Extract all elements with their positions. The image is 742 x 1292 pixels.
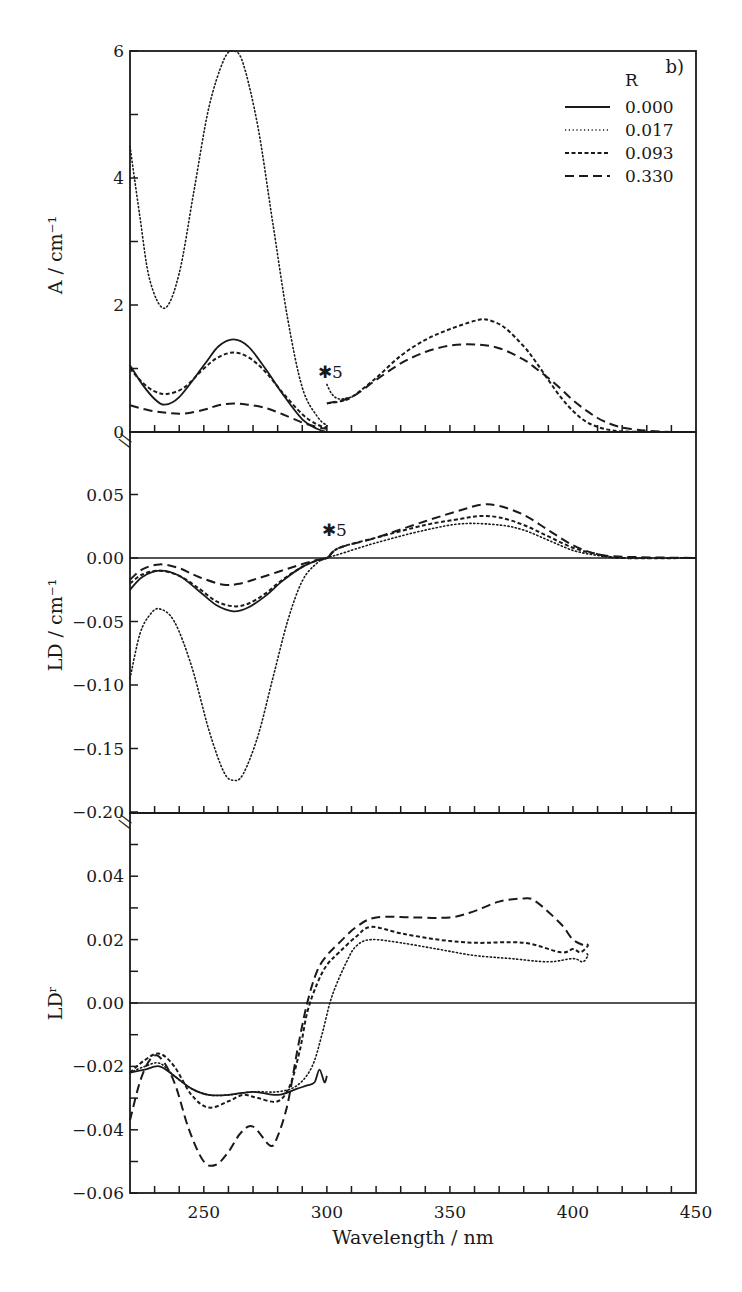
curves <box>130 898 588 1166</box>
legend-title: R <box>625 70 639 90</box>
x-tick-label: 450 <box>680 1202 712 1222</box>
panel-absorbance: 0246 A / cm⁻¹ ✱5 b) R 0.0000.0170.0930.3… <box>44 41 696 442</box>
series-curve-solid <box>130 339 327 432</box>
legend-label: 0.000 <box>625 97 674 117</box>
series-curve-dotted <box>130 51 327 426</box>
curves <box>130 504 696 780</box>
legend-entries: 0.0000.0170.0930.330 <box>565 97 674 186</box>
curves <box>130 51 696 432</box>
x-tick-label: 300 <box>311 1202 343 1222</box>
legend-label: 0.017 <box>625 120 674 140</box>
panel-linear-dichroism: −0.20−0.15−0.10−0.050.000.05 LD / cm⁻¹ ✱… <box>44 432 696 822</box>
y-tick-label: 0.05 <box>86 485 124 505</box>
panel-reduced-linear-dichroism: −0.06−0.04−0.020.000.020.04 LDʳ // 25030… <box>44 813 712 1248</box>
y-tick-label: 0.02 <box>86 930 124 950</box>
series-curve-short-dash <box>130 927 588 1108</box>
y-tick-label: −0.02 <box>72 1056 124 1076</box>
figure: 0246 A / cm⁻¹ ✱5 b) R 0.0000.0170.0930.3… <box>0 0 742 1292</box>
y-tick-label: 0.00 <box>86 993 124 1013</box>
axis-break-mark: // <box>114 432 136 449</box>
y-axis-title: LD / cm⁻¹ <box>44 579 66 672</box>
legend: R 0.0000.0170.0930.330 <box>565 70 674 186</box>
legend-label: 0.330 <box>625 166 674 186</box>
y-axis-title: A / cm⁻¹ <box>44 216 66 296</box>
x-tick-labels: 250300350400450 <box>188 1202 713 1222</box>
y-tick-label: 6 <box>113 41 124 61</box>
y-axis-title: LDʳ <box>44 986 66 1020</box>
panel-frame <box>130 432 696 813</box>
panel-frame <box>130 51 696 432</box>
legend-label: 0.093 <box>625 143 674 163</box>
panel-tag: b) <box>665 56 684 77</box>
x-tick-label: 250 <box>188 1202 220 1222</box>
x-axis-ticks <box>155 1186 672 1193</box>
y-tick-label: 4 <box>113 168 124 188</box>
series-curve-dotted <box>130 523 696 780</box>
y-tick-label: 2 <box>113 295 124 315</box>
axis-break-mark: // <box>114 813 136 830</box>
y-tick-label: 0.04 <box>86 866 124 886</box>
y-tick-label: −0.05 <box>72 612 124 632</box>
series-curve-long-dash <box>130 403 327 428</box>
y-tick-label: 0.00 <box>86 548 124 568</box>
y-axis-ticks: −0.20−0.15−0.10−0.050.000.05 <box>72 485 138 823</box>
series-curve-long-dash <box>327 344 696 432</box>
series-curve-dotted <box>130 940 588 1096</box>
x-tick-label: 400 <box>557 1202 589 1222</box>
series-curve-long-dash <box>130 504 696 585</box>
series-curve-long-dash <box>130 898 585 1166</box>
series-curve-short-dash <box>130 353 327 428</box>
x-axis-ticks <box>155 806 672 813</box>
scale-marker: ✱5 <box>318 362 343 382</box>
x-tick-label: 350 <box>434 1202 466 1222</box>
y-tick-label: −0.06 <box>72 1183 124 1203</box>
y-axis-ticks: −0.06−0.04−0.020.000.020.04 <box>72 845 138 1204</box>
chart-canvas: 0246 A / cm⁻¹ ✱5 b) R 0.0000.0170.0930.3… <box>0 0 742 1292</box>
series-curve-short-dash <box>130 516 696 606</box>
series-curve-solid <box>130 1066 327 1095</box>
y-tick-label: −0.04 <box>72 1120 124 1140</box>
x-axis-title: Wavelength / nm <box>332 1226 494 1248</box>
scale-marker: ✱5 <box>322 520 347 540</box>
y-tick-label: −0.10 <box>72 675 124 695</box>
series-curve-dotted <box>327 384 352 399</box>
y-axis-ticks: 0246 <box>113 41 138 442</box>
y-tick-label: −0.15 <box>72 739 124 759</box>
